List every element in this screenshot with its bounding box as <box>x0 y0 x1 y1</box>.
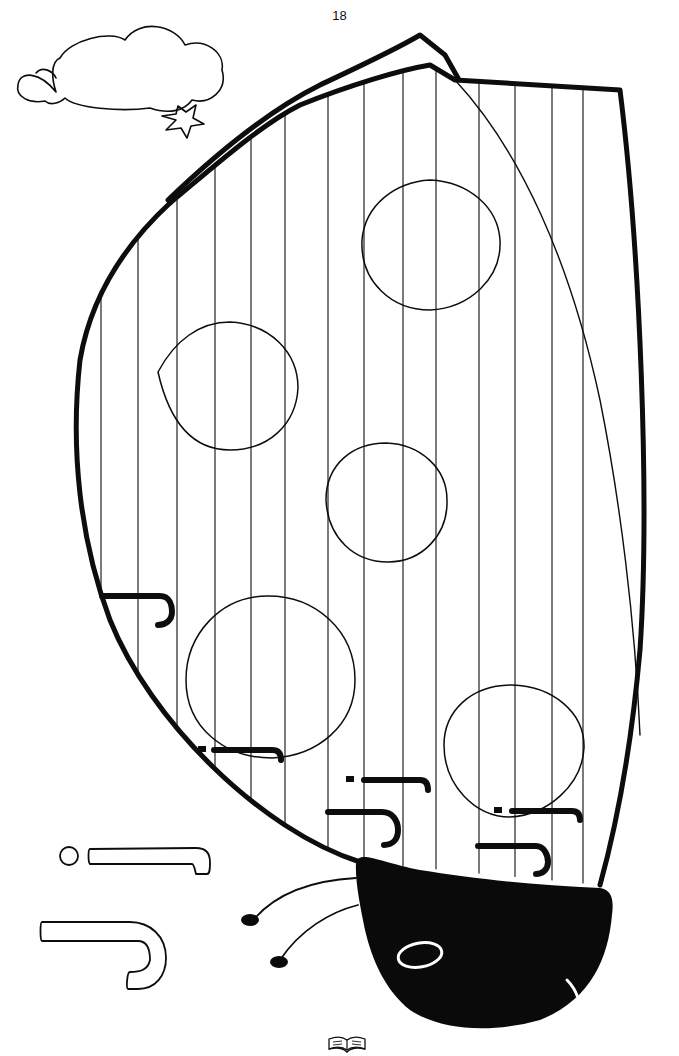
cloud-icon <box>18 26 224 111</box>
letter-resh-6 <box>478 846 548 874</box>
spot-5 <box>444 685 584 817</box>
letter-yod-resh-5 <box>494 807 580 820</box>
example-letters <box>41 847 211 989</box>
spot-2 <box>158 322 298 450</box>
letter-yod-resh-3 <box>346 776 428 790</box>
open-book-icon <box>327 1035 367 1053</box>
antennae <box>241 878 358 968</box>
ladybug-head <box>356 857 613 1028</box>
traced-letters <box>102 596 580 874</box>
spot-4 <box>186 596 355 758</box>
shell-spots <box>158 180 584 817</box>
ladybug-worksheet-illustration <box>0 0 679 1056</box>
ladybug-shell <box>76 35 644 885</box>
star-icon <box>162 105 204 138</box>
shell-stripes <box>101 0 583 1000</box>
letter-resh-4 <box>328 812 398 845</box>
spot-3 <box>326 443 447 562</box>
